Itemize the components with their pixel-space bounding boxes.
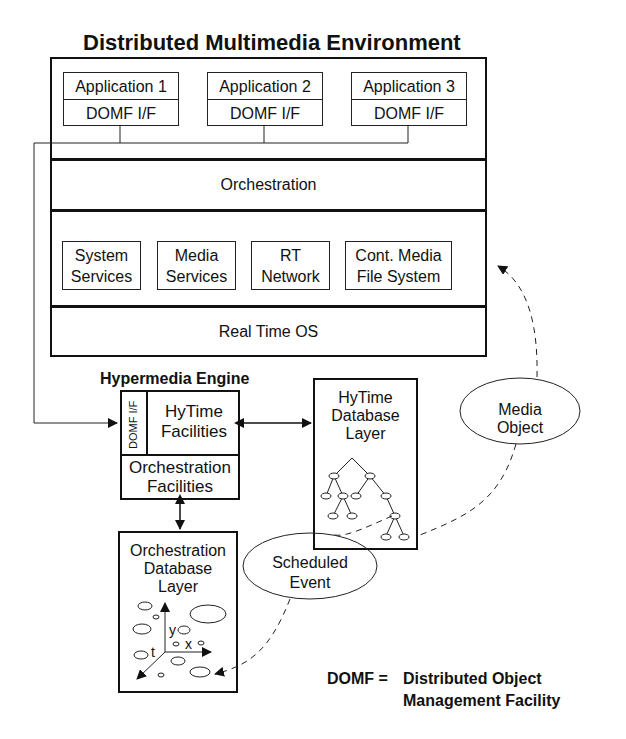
media-object-ellipse xyxy=(460,378,580,444)
scheduled-event-ellipse xyxy=(243,533,377,599)
axes-scatter-icon xyxy=(133,602,226,679)
application-bus xyxy=(34,126,408,423)
tree-icon xyxy=(321,458,409,540)
dashed-connector xyxy=(215,266,537,674)
connector-layer xyxy=(0,0,626,739)
